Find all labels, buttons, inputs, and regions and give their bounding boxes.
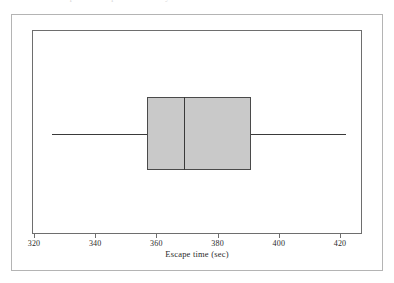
figure-caption-text: …box plot… escape time… study… (45, 0, 179, 2)
x-axis-title: Escape time (sec) (0, 249, 394, 259)
figure-caption-strip: …box plot… escape time… study… (0, 0, 394, 11)
plot-frame (32, 30, 362, 234)
